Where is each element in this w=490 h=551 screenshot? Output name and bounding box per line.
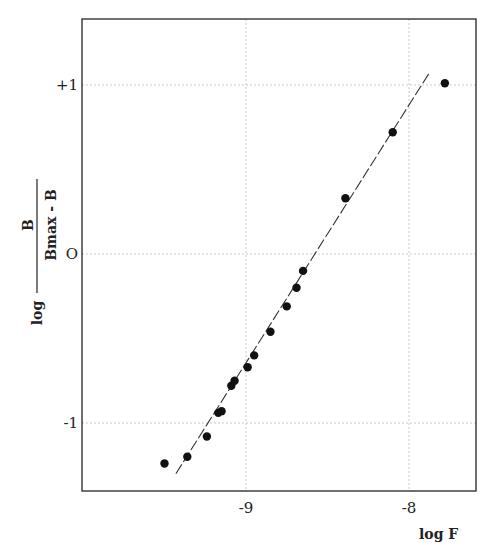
data-point — [160, 459, 168, 467]
scatter-plot: -9-8 +1O-1 log F log B Bmax - B — [0, 0, 490, 551]
data-point — [266, 328, 274, 336]
x-axis-label: log F — [419, 526, 458, 542]
y-tick-label: O — [66, 245, 78, 263]
data-point — [341, 194, 349, 202]
data-point — [217, 407, 225, 415]
data-point — [389, 128, 397, 136]
data-point — [441, 79, 449, 87]
plot-frame — [82, 19, 476, 491]
data-point — [183, 453, 191, 461]
y-label-numerator: B — [20, 219, 36, 231]
y-label-denominator: Bmax - B — [43, 189, 59, 261]
data-points — [160, 79, 449, 468]
data-point — [283, 302, 291, 310]
data-point — [250, 351, 258, 359]
x-tick-label: -8 — [402, 499, 417, 517]
y-tick-label: +1 — [56, 76, 78, 94]
data-point — [203, 432, 211, 440]
data-point — [299, 267, 307, 275]
y-axis-ticks: +1O-1 — [56, 76, 78, 432]
y-label-log: log — [29, 301, 45, 326]
y-tick-label: -1 — [63, 414, 78, 432]
y-axis-label: log B Bmax - B — [20, 179, 59, 325]
data-point — [230, 377, 238, 385]
data-point — [243, 363, 251, 371]
x-tick-label: -9 — [239, 499, 254, 517]
grid-lines — [82, 19, 476, 491]
x-axis-ticks: -9-8 — [239, 499, 417, 517]
data-point — [292, 284, 300, 292]
